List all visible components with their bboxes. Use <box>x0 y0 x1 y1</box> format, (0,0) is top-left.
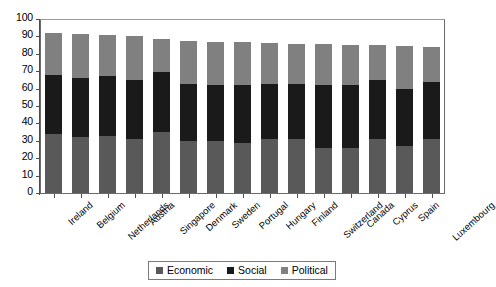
bar-segment-social[interactable] <box>288 84 305 139</box>
bar-segment-economic[interactable] <box>207 141 224 193</box>
x-axis-tick-mark <box>297 194 298 198</box>
bar-segment-social[interactable] <box>315 85 332 148</box>
x-axis-tick-mark <box>162 194 163 198</box>
x-axis-tick-mark <box>216 194 217 198</box>
bar-segment-social[interactable] <box>423 82 440 139</box>
y-axis-tick-label: 10 <box>22 169 33 180</box>
bar-segment-political[interactable] <box>45 33 62 75</box>
legend-item[interactable]: Economic <box>156 264 213 276</box>
bar-segment-social[interactable] <box>261 84 278 139</box>
y-axis-tick-label: 30 <box>22 134 33 145</box>
bar-segment-social[interactable] <box>126 80 143 139</box>
bar-segment-political[interactable] <box>396 46 413 89</box>
x-axis-tick-mark <box>405 194 406 198</box>
bar-segment-economic[interactable] <box>369 139 386 193</box>
bar-stack[interactable] <box>153 39 170 193</box>
bar-segment-political[interactable] <box>261 43 278 84</box>
y-axis-tick-label: 100 <box>16 12 33 23</box>
x-axis-tick-label: Spain <box>416 200 441 224</box>
bar-segment-economic[interactable] <box>72 137 89 193</box>
bar-segment-social[interactable] <box>45 75 62 134</box>
bar-segment-political[interactable] <box>288 44 305 84</box>
bar-segment-social[interactable] <box>180 84 197 141</box>
bar-segment-social[interactable] <box>342 85 359 148</box>
bar-segment-political[interactable] <box>369 45 386 80</box>
y-axis-tick-label: 80 <box>22 47 33 58</box>
bar-segment-social[interactable] <box>207 85 224 141</box>
legend-label: Economic <box>167 264 213 276</box>
bar-stack[interactable] <box>423 47 440 193</box>
x-axis-tick-label: Portugal <box>257 200 290 231</box>
legend-item[interactable]: Political <box>281 264 328 276</box>
bar-stack[interactable] <box>180 41 197 193</box>
bar-segment-economic[interactable] <box>396 146 413 193</box>
bar-segment-economic[interactable] <box>342 148 359 193</box>
bar-stack[interactable] <box>261 43 278 193</box>
bar-segment-social[interactable] <box>72 78 89 137</box>
bar-segment-economic[interactable] <box>180 141 197 193</box>
x-axis-tick-mark <box>378 194 379 198</box>
bar-segment-economic[interactable] <box>153 132 170 193</box>
x-axis-tick-label: Hungary <box>284 200 317 231</box>
x-axis-tick-mark <box>135 194 136 198</box>
bar-segment-political[interactable] <box>153 39 170 72</box>
x-axis-tick-mark <box>432 194 433 198</box>
legend-swatch-icon <box>281 267 288 274</box>
bar-segment-economic[interactable] <box>261 139 278 193</box>
bar-stack[interactable] <box>207 42 224 193</box>
bar-segment-political[interactable] <box>423 47 440 82</box>
y-axis-tick-label: 90 <box>22 29 33 40</box>
bar-segment-economic[interactable] <box>315 148 332 193</box>
bar-segment-political[interactable] <box>126 36 143 80</box>
legend-swatch-icon <box>156 267 163 274</box>
x-axis-tick-mark <box>108 194 109 198</box>
bar-segment-economic[interactable] <box>288 139 305 193</box>
bar-segment-social[interactable] <box>396 89 413 146</box>
legend-label: Political <box>292 264 328 276</box>
x-axis-tick-mark <box>81 194 82 198</box>
bar-stack[interactable] <box>45 33 62 193</box>
bar-stack[interactable] <box>288 44 305 193</box>
bar-segment-social[interactable] <box>153 72 170 132</box>
bar-segment-political[interactable] <box>315 44 332 85</box>
bar-stack[interactable] <box>342 45 359 193</box>
bar-stack[interactable] <box>126 36 143 193</box>
x-axis-tick-mark <box>270 194 271 198</box>
bar-segment-political[interactable] <box>234 42 251 86</box>
bar-stack[interactable] <box>234 42 251 193</box>
bar-stack[interactable] <box>315 44 332 193</box>
y-axis-tick-label: 40 <box>22 116 33 127</box>
bar-segment-economic[interactable] <box>99 136 116 193</box>
bar-segment-economic[interactable] <box>234 143 251 193</box>
bar-stack[interactable] <box>369 45 386 193</box>
bars-layer <box>40 19 445 194</box>
bar-stack[interactable] <box>99 35 116 193</box>
bar-segment-political[interactable] <box>99 35 116 77</box>
bar-segment-economic[interactable] <box>126 139 143 193</box>
bar-segment-social[interactable] <box>234 85 251 142</box>
legend-item[interactable]: Social <box>227 264 267 276</box>
x-axis-tick-label: Ireland <box>66 200 94 227</box>
bar-segment-political[interactable] <box>207 42 224 86</box>
bar-segment-social[interactable] <box>99 76 116 135</box>
bar-segment-social[interactable] <box>369 80 386 139</box>
x-axis-tick-mark <box>243 194 244 198</box>
x-axis-tick-mark <box>189 194 190 198</box>
y-axis-tick-label: 60 <box>22 82 33 93</box>
y-axis-tick-label: 20 <box>22 151 33 162</box>
bar-segment-political[interactable] <box>72 34 89 78</box>
x-axis-tick-mark <box>54 194 55 198</box>
bar-segment-political[interactable] <box>180 41 197 85</box>
x-axis-tick-label: Cyprus <box>390 200 419 228</box>
x-axis-tick-label: Belgium <box>94 200 126 230</box>
chart-legend: EconomicSocialPolitical <box>148 261 336 280</box>
legend-label: Social <box>238 264 267 276</box>
bar-segment-economic[interactable] <box>423 139 440 193</box>
x-axis-tick-label: Luxembourg <box>450 200 496 243</box>
bar-segment-economic[interactable] <box>45 134 62 193</box>
bar-stack[interactable] <box>396 46 413 193</box>
bar-segment-political[interactable] <box>342 45 359 85</box>
bar-stack[interactable] <box>72 34 89 193</box>
y-axis-tick-label: 0 <box>27 186 33 197</box>
